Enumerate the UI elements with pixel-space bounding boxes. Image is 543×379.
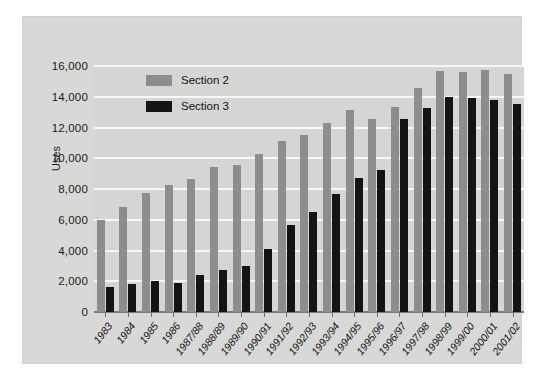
y-axis-tick-label: 2,000 [58, 275, 88, 287]
bar-group [479, 66, 502, 312]
bar-group [501, 66, 524, 312]
y-axis-tick-label: 10,000 [52, 152, 88, 164]
bar-section-3 [128, 284, 136, 312]
bar-section-3 [445, 97, 453, 312]
bar-section-3 [377, 170, 385, 312]
x-axis-tick-label: 1985 [136, 320, 160, 346]
tick-mark [377, 312, 378, 317]
bar-section-2 [255, 154, 263, 312]
bar-section-2 [210, 167, 218, 312]
bar-section-3 [332, 194, 340, 312]
bar-section-2 [323, 123, 331, 312]
bar-section-2 [504, 74, 512, 312]
legend-item-section-3: Section 3 [146, 100, 296, 112]
tick-mark [151, 312, 152, 317]
bar-section-2 [142, 193, 150, 312]
bar-section-3 [264, 249, 272, 312]
bar-section-2 [391, 107, 399, 312]
tick-mark [332, 312, 333, 317]
tick-mark [309, 312, 310, 317]
bar-section-2 [459, 72, 467, 312]
bar-section-3 [490, 100, 498, 312]
bar-group [433, 66, 456, 312]
tick-mark [241, 312, 242, 317]
bar-section-3 [174, 283, 182, 312]
bar-section-3 [287, 225, 295, 312]
tick-mark [490, 312, 491, 317]
y-axis-tick-label: 12,000 [52, 122, 88, 134]
tick-mark [128, 312, 129, 317]
y-axis-tick-labels: 16,00014,00012,00010,0008,0006,0004,0002… [22, 66, 88, 312]
tick-mark [513, 312, 514, 317]
tick-mark [286, 312, 287, 317]
tick-mark [105, 312, 106, 317]
tick-mark [196, 312, 197, 317]
tick-mark [173, 312, 174, 317]
chart-legend: Section 2 Section 3 [146, 74, 296, 126]
bar-section-2 [346, 110, 354, 312]
bar-group [411, 66, 434, 312]
bar-section-2 [368, 119, 376, 312]
bar-group [366, 66, 389, 312]
bar-section-2 [481, 70, 489, 312]
bar-section-3 [355, 178, 363, 312]
bar-section-2 [414, 88, 422, 312]
x-label-cell: 1984 [117, 318, 140, 378]
bar-group [94, 66, 117, 312]
bar-section-2 [436, 71, 444, 312]
y-axis-tick-label: 14,000 [52, 91, 88, 103]
legend-item-section-2: Section 2 [146, 74, 296, 86]
y-axis-tick-label: 8,000 [58, 183, 88, 195]
tick-mark [354, 312, 355, 317]
x-label-cell: 1985 [139, 318, 162, 378]
y-axis-tick-label: 4,000 [58, 245, 88, 257]
bar-group [388, 66, 411, 312]
bar-section-3 [400, 119, 408, 312]
chart-panel: Uses 16,00014,00012,00010,0008,0006,0004… [22, 16, 522, 364]
y-axis-tick-label: 6,000 [58, 214, 88, 226]
chart-screenshot: Uses 16,00014,00012,00010,0008,0006,0004… [0, 0, 543, 379]
tick-mark [422, 312, 423, 317]
bar-section-3 [106, 287, 114, 312]
bar-section-2 [300, 135, 308, 312]
bar-section-2 [278, 141, 286, 312]
bar-section-3 [219, 270, 227, 312]
bar-group [298, 66, 321, 312]
legend-swatch-section-2 [146, 75, 172, 86]
tick-mark [399, 312, 400, 317]
bar-section-3 [151, 281, 159, 312]
x-axis-tick-label: 1983 [91, 320, 115, 346]
tick-mark [445, 312, 446, 317]
x-axis-tick-label: 1984 [114, 320, 138, 346]
tick-mark [218, 312, 219, 317]
bar-section-2 [119, 207, 127, 312]
bar-group [456, 66, 479, 312]
legend-swatch-section-3 [146, 101, 172, 112]
bar-group [117, 66, 140, 312]
bar-section-3 [468, 98, 476, 312]
bar-section-3 [242, 266, 250, 312]
bar-section-2 [97, 220, 105, 312]
bar-section-3 [513, 104, 521, 312]
bar-section-3 [309, 212, 317, 312]
bar-section-2 [233, 165, 241, 312]
x-label-cell: 2001/02 [501, 318, 524, 378]
y-axis-tick-label: 16,000 [52, 60, 88, 72]
bar-section-3 [196, 275, 204, 312]
tick-mark [467, 312, 468, 317]
legend-label-section-3: Section 3 [181, 100, 229, 112]
y-axis-tick-label: 0 [81, 306, 88, 318]
x-axis-tick-labels: 19831984198519861987/881988/891989/90199… [94, 318, 524, 378]
bar-group [343, 66, 366, 312]
bar-section-2 [165, 185, 173, 312]
bar-section-2 [187, 179, 195, 312]
tick-mark [264, 312, 265, 317]
x-label-cell: 1983 [94, 318, 117, 378]
legend-label-section-2: Section 2 [181, 74, 229, 86]
bar-section-3 [423, 108, 431, 312]
bar-group [320, 66, 343, 312]
